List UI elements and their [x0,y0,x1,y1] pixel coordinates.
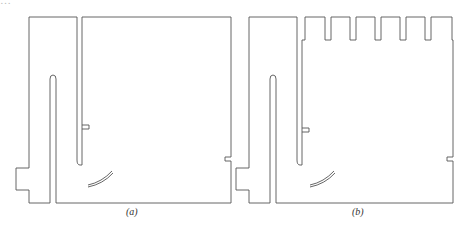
panel-a-left-column [29,17,82,165]
antenna-figure [0,0,466,228]
panel-b-caption: (b) [352,206,364,217]
panel-a-caption: (a) [126,206,138,217]
panel-b-left-column [249,17,305,165]
panel-b-stub [302,128,309,132]
panel-b-outline [236,17,453,203]
panel-a-drawing [16,17,231,203]
panel-b-drawing [236,17,453,203]
panel-a-stub [82,125,89,129]
